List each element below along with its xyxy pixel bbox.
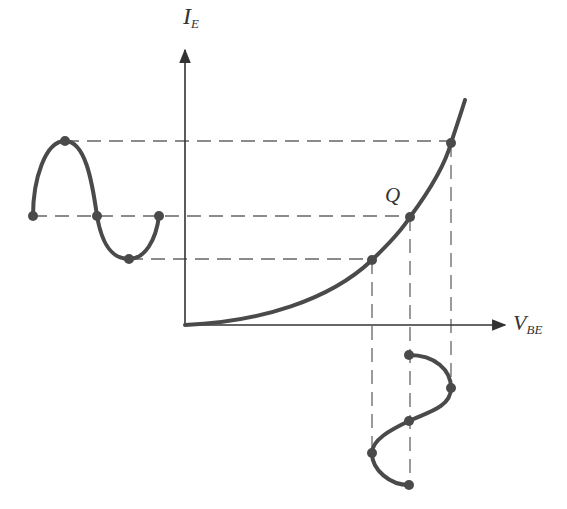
ie-sine-waveform xyxy=(33,141,159,259)
vbe-marker xyxy=(404,480,414,490)
ie-marker xyxy=(28,211,38,221)
vbe-marker xyxy=(446,383,456,393)
q-point-label: Q xyxy=(385,183,400,208)
x-axis-label: VBE xyxy=(513,310,542,338)
x-axis-label-sub: BE xyxy=(526,322,542,337)
vbe-marker xyxy=(404,416,414,426)
q-point-marker xyxy=(405,212,415,222)
ie-marker xyxy=(60,136,70,146)
characteristic-curve xyxy=(185,100,465,325)
transistor-characteristic-diagram xyxy=(0,0,567,509)
ie-marker xyxy=(154,211,164,221)
curve-marker-low xyxy=(367,255,377,265)
curve-marker-high xyxy=(446,138,456,148)
y-axis-label: IE xyxy=(183,3,199,32)
x-axis-label-main: V xyxy=(513,310,526,335)
ie-marker xyxy=(92,211,102,221)
vbe-marker xyxy=(404,350,414,360)
vbe-marker xyxy=(367,448,377,458)
y-axis-label-main: I xyxy=(183,3,191,29)
ie-marker xyxy=(124,254,134,264)
y-axis-label-sub: E xyxy=(191,16,199,31)
